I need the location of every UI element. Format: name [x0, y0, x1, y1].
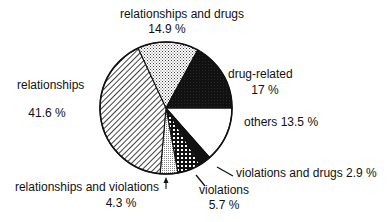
label-others: others 13.5 %	[244, 115, 318, 129]
label-violations-and-drugs: violations and drugs 2.9 %	[236, 166, 377, 180]
leader-line-violations-and-drugs	[217, 167, 233, 176]
label-relationships-name: relationships	[17, 78, 84, 92]
label-relationships-and-drugs-name: relationships and drugs	[120, 7, 244, 21]
label-drug-related-value: 17 %	[251, 83, 279, 97]
label-relationships-and-drugs-value: 14.9 %	[148, 22, 186, 36]
label-relationships-and-violations-value: 4.3 %	[106, 196, 137, 210]
label-drug-related-name: drug-related	[228, 67, 293, 81]
label-violations-name: violations	[199, 183, 249, 197]
pie-chart: relationships and drugs 14.9 % drug-rela…	[0, 0, 388, 222]
label-relationships-value: 41.6 %	[28, 106, 66, 120]
arrow-relationships-and-violations	[164, 177, 169, 183]
label-violations-value: 5.7 %	[209, 198, 240, 212]
label-relationships-and-violations-name: relationships and violations	[15, 180, 159, 194]
